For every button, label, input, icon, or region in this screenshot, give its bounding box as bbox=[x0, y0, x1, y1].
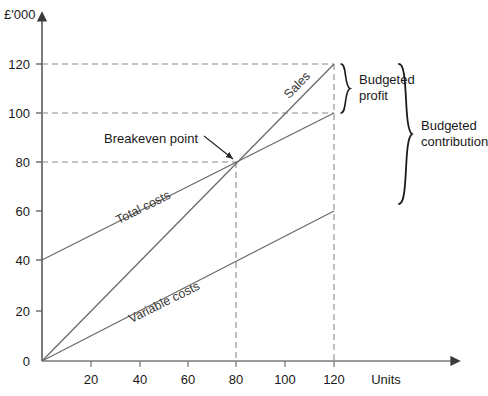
y-label-100: 100 bbox=[8, 106, 30, 121]
x-label-80: 80 bbox=[229, 372, 243, 387]
y-axis-tick-labels: 120 100 80 60 40 20 0 bbox=[8, 57, 30, 369]
y-axis-ticks bbox=[36, 64, 42, 311]
y-label-20: 20 bbox=[16, 304, 30, 319]
budgeted-contribution-label-line1: Budgeted bbox=[421, 118, 477, 133]
budgeted-profit-label-line1: Budgeted bbox=[359, 72, 415, 87]
y-axis-title: £'000 bbox=[4, 7, 35, 22]
x-axis-tick-labels: 20 40 60 80 100 120 bbox=[84, 372, 345, 387]
y-label-40: 40 bbox=[16, 253, 30, 268]
series-labels: Sales Total costs Variable costs bbox=[114, 69, 313, 326]
total-costs-line-label: Total costs bbox=[114, 188, 173, 227]
y-label-60: 60 bbox=[16, 204, 30, 219]
budgeted-profit-label-line2: profit bbox=[359, 88, 388, 103]
x-label-100: 100 bbox=[274, 372, 296, 387]
x-axis-title: Units bbox=[371, 372, 401, 387]
y-label-80: 80 bbox=[16, 155, 30, 170]
y-label-120: 120 bbox=[8, 57, 30, 72]
sales-line bbox=[42, 64, 334, 361]
breakeven-chart-figure: Breakeven point Budgeted profit Budgeted… bbox=[0, 0, 488, 396]
x-label-20: 20 bbox=[84, 372, 98, 387]
budgeted-profit-brace-icon bbox=[341, 64, 350, 113]
x-axis-ticks bbox=[91, 361, 334, 367]
breakeven-arrow bbox=[204, 136, 233, 159]
x-label-40: 40 bbox=[133, 372, 147, 387]
x-label-120: 120 bbox=[323, 372, 345, 387]
y-label-0: 0 bbox=[23, 354, 30, 369]
breakeven-point-label: Breakeven point bbox=[104, 131, 198, 146]
series-lines bbox=[42, 64, 334, 361]
chart-canvas: Breakeven point Budgeted profit Budgeted… bbox=[0, 0, 488, 396]
variable-costs-line-label: Variable costs bbox=[126, 279, 202, 326]
budgeted-contribution-label-line2: contribution bbox=[421, 134, 488, 149]
breakeven-annotation: Breakeven point bbox=[104, 131, 233, 159]
x-label-60: 60 bbox=[181, 372, 195, 387]
sales-line-label: Sales bbox=[281, 69, 313, 101]
